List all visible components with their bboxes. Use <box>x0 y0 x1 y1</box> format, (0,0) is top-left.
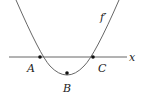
parabola-diagram: x f′ A B C <box>0 0 147 97</box>
label-c: C <box>98 62 107 75</box>
label-a: A <box>26 62 35 75</box>
point-a <box>38 55 42 59</box>
point-c <box>91 55 95 59</box>
function-label: f′ <box>99 11 107 24</box>
point-b <box>65 71 69 75</box>
label-b: B <box>62 82 71 95</box>
x-axis-label: x <box>129 51 136 64</box>
diagram: x f′ A B C <box>0 0 147 97</box>
